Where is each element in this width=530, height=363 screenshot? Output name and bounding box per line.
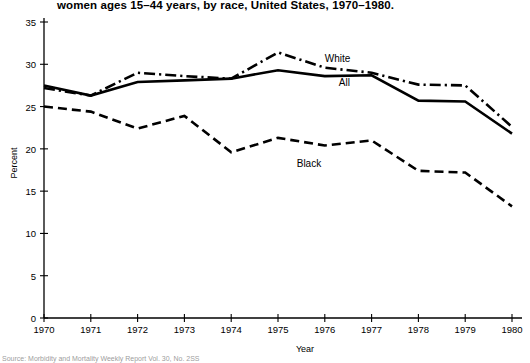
y-tick-label: 10 [10,228,36,239]
chart-plot-area [0,0,530,363]
chart-page: women ages 15–44 years, by race, United … [0,0,530,363]
x-tick-label: 1977 [352,324,392,335]
x-axis-label-text: Year [296,344,314,354]
x-tick-label: 1980 [492,324,530,335]
source-note: Source: Morbidity and Mortality Weekly R… [2,355,200,362]
series-label-all: All [339,77,350,88]
x-tick-label: 1978 [398,324,438,335]
y-tick-label: 0 [10,313,36,324]
x-axis-label: Year [0,344,530,354]
y-tick-label: 5 [10,270,36,281]
x-tick-label: 1975 [258,324,298,335]
y-axis-label: Percent [9,133,19,193]
y-tick-label: 15 [10,186,36,197]
x-tick-label: 1970 [24,324,64,335]
y-tick-label: 25 [10,101,36,112]
x-tick-label: 1976 [305,324,345,335]
series-line-black [44,107,512,207]
x-tick-label: 1979 [445,324,485,335]
series-label-white: White [325,53,351,64]
y-tick-label: 35 [10,17,36,28]
y-tick-label: 20 [10,143,36,154]
x-tick-label: 1973 [164,324,204,335]
series-label-black: Black [297,158,321,169]
y-tick-label: 30 [10,59,36,70]
x-tick-label: 1971 [71,324,111,335]
x-tick-label: 1974 [211,324,251,335]
chart-svg [0,0,530,363]
series-line-all [44,70,512,133]
x-tick-label: 1972 [118,324,158,335]
